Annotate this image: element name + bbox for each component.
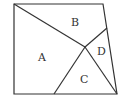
region-label-a: A [37, 51, 47, 64]
region-label-c: C [80, 73, 88, 86]
segment-center-to-bottom [54, 47, 85, 94]
region-label-d: D [97, 45, 106, 58]
region-label-b: B [71, 16, 79, 29]
partition-diagram: A B C D [0, 0, 123, 101]
